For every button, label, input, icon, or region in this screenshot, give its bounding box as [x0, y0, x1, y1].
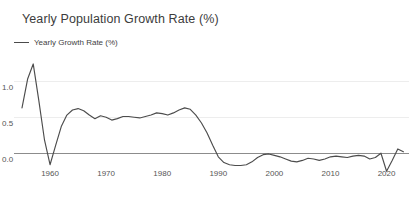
x-axis-tick-label: 1970 — [97, 169, 115, 178]
x-axis-tick-label: 1980 — [153, 169, 171, 178]
line-chart-svg: 0.00.51.01960197019801990200020102020 — [0, 0, 409, 197]
x-axis-tick-label: 1990 — [209, 169, 227, 178]
x-axis-tick-label: 2000 — [265, 169, 283, 178]
x-axis-tick-label: 2010 — [322, 169, 340, 178]
x-axis-tick-label: 2020 — [378, 169, 396, 178]
chart-page: Yearly Population Growth Rate (%) Yearly… — [0, 0, 409, 197]
y-axis-tick-label: 1.0 — [2, 83, 14, 92]
chart-plot-area: 0.00.51.01960197019801990200020102020 — [0, 0, 409, 197]
y-axis-tick-label: 0.5 — [2, 119, 14, 128]
y-axis-tick-label: 0.0 — [2, 155, 14, 164]
x-axis-tick-label: 1960 — [41, 169, 59, 178]
